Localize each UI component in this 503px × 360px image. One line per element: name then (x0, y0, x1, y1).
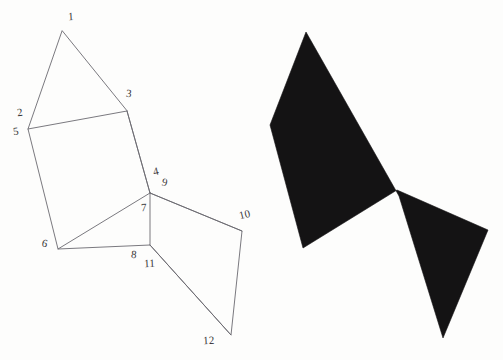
polygon-outline-path (28, 31, 242, 335)
vertex-label-1: 1 (68, 11, 74, 22)
internal-edge-3-4 (127, 111, 150, 193)
internal-edge-11-12 (150, 245, 231, 335)
vertex-label-2: 2 (16, 107, 23, 119)
vertex-label-11: 11 (144, 258, 156, 270)
vertex-label-8: 8 (130, 249, 137, 261)
vertex-label-7: 7 (141, 202, 147, 213)
figure-canvas: 123456789101112 (0, 0, 503, 360)
left-outlined-polygon (28, 31, 242, 335)
figure-svg (0, 0, 503, 360)
internal-edge-9-10 (150, 193, 242, 231)
internal-edge-6-4 (58, 193, 150, 249)
right-filled-polygon (270, 32, 488, 338)
internal-edge-2-3 (28, 111, 127, 129)
vertex-label-12: 12 (203, 335, 215, 347)
vertex-label-5: 5 (12, 126, 19, 138)
silhouette-path (270, 32, 488, 338)
vertex-label-3: 3 (125, 88, 132, 100)
